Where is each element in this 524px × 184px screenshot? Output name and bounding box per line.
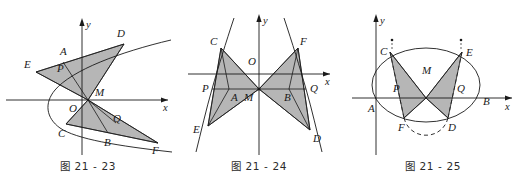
figure-panel-21-25: x y C E M P Q A B F [342, 0, 524, 184]
x-axis-label: x [162, 102, 168, 113]
figure-21-25-diagram: x y C E M P Q A B F [342, 0, 524, 158]
point-label-C: C [210, 35, 218, 47]
point-label-Q: Q [310, 82, 318, 94]
x-axis-label: x [324, 76, 330, 87]
point-label-M: M [94, 86, 105, 98]
point-label-O: O [248, 55, 256, 67]
point-label-Q: Q [457, 82, 465, 94]
point-label-A: A [59, 45, 67, 57]
point-label-P: P [56, 62, 64, 74]
point-label-E: E [465, 46, 473, 58]
point-label-P: P [201, 82, 209, 94]
figure-21-24-diagram: x y C F O P Q A [176, 0, 342, 158]
y-axis-arrow [373, 14, 378, 22]
point-label-B: B [483, 95, 490, 107]
figure-caption-21-24: 图 21 - 24 [176, 158, 342, 173]
point-label-F: F [397, 121, 405, 133]
y-axis-arrow [256, 14, 261, 22]
figure-21-23-diagram: x y E A P D M O C Q B F [0, 0, 176, 158]
figure-caption-21-25: 图 21 - 25 [342, 158, 524, 173]
point-label-E: E [23, 58, 31, 70]
x-axis-label: x [504, 101, 510, 112]
point-label-M: M [243, 91, 254, 103]
y-axis-label: y [262, 15, 268, 26]
figure-panel-21-23: x y E A P D M O C Q B F [0, 0, 176, 184]
shaded-region-upper [36, 44, 124, 100]
point-label-D: D [116, 27, 125, 39]
point-label-P: P [392, 82, 400, 94]
point-label-B: B [284, 91, 291, 103]
point-label-Q: Q [113, 112, 121, 124]
point-label-A: A [230, 91, 238, 103]
point-label-O: O [69, 102, 77, 114]
y-axis-arrow [79, 18, 84, 26]
point-label-B: B [104, 136, 111, 148]
point-label-D: D [447, 121, 456, 133]
x-axis-arrow [505, 95, 512, 100]
point-label-M: M [421, 64, 432, 76]
point-label-D: D [312, 132, 321, 144]
figure-sheet: x y E A P D M O C Q B F [0, 0, 524, 184]
point-label-C: C [58, 127, 66, 139]
point-label-F: F [299, 35, 307, 47]
center-point-marker [257, 87, 260, 90]
figure-panel-21-24: x y C F O P Q A [176, 0, 342, 184]
dot-marker-above-C [391, 39, 394, 42]
point-label-A: A [367, 102, 375, 114]
point-label-F: F [151, 144, 159, 156]
y-axis-label: y [85, 19, 91, 30]
point-label-C: C [380, 45, 388, 57]
dot-marker-above-E [460, 39, 463, 42]
point-label-E: E [192, 123, 200, 135]
figure-caption-21-23: 图 21 - 23 [0, 158, 176, 173]
y-axis-label: y [379, 15, 385, 26]
